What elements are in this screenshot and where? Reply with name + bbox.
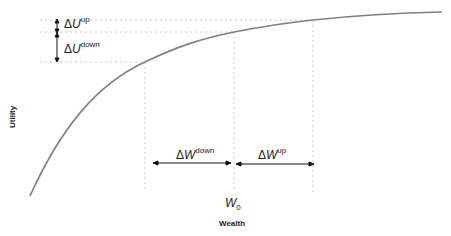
- var: U: [72, 17, 81, 31]
- delta-symbol: Δ: [176, 148, 184, 162]
- sup: down: [81, 40, 100, 49]
- delta-w-down-label: ΔWdown: [176, 146, 214, 162]
- var: U: [72, 42, 81, 56]
- w0-sub: 0: [236, 203, 240, 212]
- y-axis-title: Utility: [8, 106, 17, 128]
- sup: up: [277, 146, 286, 155]
- delta-symbol: Δ: [64, 42, 72, 56]
- w0-var: W: [225, 196, 236, 210]
- var: W: [266, 148, 277, 162]
- delta-symbol: Δ: [258, 148, 266, 162]
- delta-u-down-label: ΔUdown: [64, 40, 100, 56]
- delta-u-arrows: [55, 19, 59, 62]
- delta-symbol: Δ: [64, 17, 72, 31]
- sup: up: [81, 15, 90, 24]
- delta-w-up-label: ΔWup: [258, 146, 286, 162]
- delta-u-up-label: ΔUup: [64, 15, 90, 31]
- sup: down: [195, 146, 214, 155]
- x-axis-title: Wealth: [219, 219, 245, 228]
- var: W: [184, 148, 195, 162]
- w0-label: W0: [225, 196, 241, 212]
- vertical-guides: [145, 20, 313, 192]
